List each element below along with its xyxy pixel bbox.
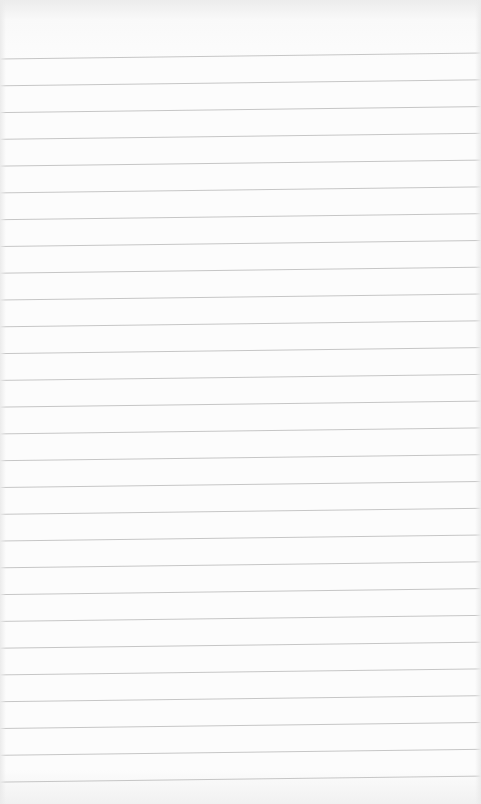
ruled-line: [0, 133, 481, 139]
paper-left-edge: [0, 0, 6, 804]
paper-right-edge: [475, 0, 481, 804]
ruled-paper: [0, 0, 481, 804]
ruled-line: [0, 107, 481, 113]
ruled-line: [0, 535, 481, 541]
ruled-line: [0, 53, 481, 59]
ruled-line: [0, 401, 481, 407]
ruled-line: [0, 428, 481, 434]
ruled-line: [0, 482, 481, 488]
ruled-line: [0, 749, 481, 755]
ruled-line: [0, 723, 481, 729]
ruled-line: [0, 589, 481, 595]
ruled-line: [0, 642, 481, 648]
ruled-line: [0, 669, 481, 675]
ruled-line: [0, 80, 481, 86]
ruled-line: [0, 562, 481, 568]
ruled-line: [0, 214, 481, 220]
ruled-line: [0, 321, 481, 327]
ruled-line: [0, 374, 481, 380]
ruled-line: [0, 455, 481, 461]
ruled-line: [0, 160, 481, 166]
ruled-line: [0, 696, 481, 702]
ruled-line: [0, 187, 481, 193]
ruled-line: [0, 615, 481, 621]
ruled-line: [0, 508, 481, 514]
ruled-line: [0, 348, 481, 354]
ruled-line: [0, 776, 481, 782]
ruled-line: [0, 267, 481, 273]
ruled-line: [0, 241, 481, 247]
ruled-line: [0, 294, 481, 300]
ruled-lines: [0, 0, 481, 804]
